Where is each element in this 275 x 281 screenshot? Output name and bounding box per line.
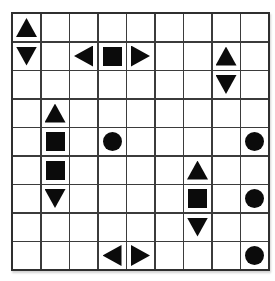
grid-cell-r1c2[interactable]: [42, 14, 69, 41]
grid-cell-r3c7[interactable]: [184, 71, 211, 98]
grid-cell-r2c6[interactable]: [156, 43, 183, 70]
grid-cell-r8c2[interactable]: [42, 214, 69, 241]
grid-cell-r3c4[interactable]: [99, 71, 126, 98]
grid-cell-r2c2[interactable]: [42, 43, 69, 70]
grid-cell-r6c6[interactable]: [156, 157, 183, 184]
grid-cell-r2c5[interactable]: [127, 43, 154, 70]
grid-cell-r5c5[interactable]: [127, 128, 154, 155]
grid-cell-r3c9[interactable]: [241, 71, 268, 98]
grid-cell-r5c4[interactable]: [99, 128, 126, 155]
grid-cell-r4c7[interactable]: [184, 100, 211, 127]
grid-cell-r4c8[interactable]: [213, 100, 240, 127]
grid-cell-r9c1[interactable]: [13, 242, 40, 269]
grid-cell-r5c8[interactable]: [213, 128, 240, 155]
grid-cell-r4c5[interactable]: [127, 100, 154, 127]
triangle-right-icon: [131, 245, 150, 266]
grid-cell-r3c6[interactable]: [156, 71, 183, 98]
grid-cell-r1c6[interactable]: [156, 14, 183, 41]
grid-cell-r3c3[interactable]: [70, 71, 97, 98]
grid-cell-r7c6[interactable]: [156, 185, 183, 212]
triangle-left-icon: [103, 245, 122, 266]
grid-cell-r8c9[interactable]: [241, 214, 268, 241]
grid-cell-r6c7[interactable]: [184, 157, 211, 184]
square-icon: [46, 132, 65, 151]
grid-cell-r4c4[interactable]: [99, 100, 126, 127]
grid-cell-r9c4[interactable]: [99, 242, 126, 269]
grid-cell-r1c9[interactable]: [241, 14, 268, 41]
triangle-down-icon: [187, 218, 208, 237]
grid-cell-r7c7[interactable]: [184, 185, 211, 212]
grid-cell-r7c9[interactable]: [241, 185, 268, 212]
grid-cell-r8c1[interactable]: [13, 214, 40, 241]
grid-cell-r3c8[interactable]: [213, 71, 240, 98]
triangle-down-icon: [216, 75, 237, 94]
grid-cell-r3c1[interactable]: [13, 71, 40, 98]
grid-cell-r5c6[interactable]: [156, 128, 183, 155]
grid-cell-r7c2[interactable]: [42, 185, 69, 212]
grid-cell-r1c4[interactable]: [99, 14, 126, 41]
grid-cell-r6c4[interactable]: [99, 157, 126, 184]
grid-cell-r8c4[interactable]: [99, 214, 126, 241]
grid-cell-r9c8[interactable]: [213, 242, 240, 269]
grid-cell-r3c5[interactable]: [127, 71, 154, 98]
grid-cell-r7c5[interactable]: [127, 185, 154, 212]
grid-cell-r4c3[interactable]: [70, 100, 97, 127]
grid-cell-r7c8[interactable]: [213, 185, 240, 212]
grid-cell-r6c9[interactable]: [241, 157, 268, 184]
square-icon: [188, 189, 207, 208]
grid-cell-r3c2[interactable]: [42, 71, 69, 98]
grid-cell-r9c2[interactable]: [42, 242, 69, 269]
grid-cell-r2c9[interactable]: [241, 43, 268, 70]
grid-cell-r1c7[interactable]: [184, 14, 211, 41]
grid-cell-r5c1[interactable]: [13, 128, 40, 155]
grid-cell-r5c7[interactable]: [184, 128, 211, 155]
square-icon: [46, 161, 65, 180]
circle-icon: [103, 132, 122, 151]
grid-cell-r5c9[interactable]: [241, 128, 268, 155]
grid-cell-r8c6[interactable]: [156, 214, 183, 241]
grid-cell-r8c3[interactable]: [70, 214, 97, 241]
grid-cell-r2c1[interactable]: [13, 43, 40, 70]
grid-cell-r9c9[interactable]: [241, 242, 268, 269]
grid-cell-r5c3[interactable]: [70, 128, 97, 155]
grid-cell-r9c5[interactable]: [127, 242, 154, 269]
triangle-left-icon: [74, 46, 93, 67]
grid-cell-r1c8[interactable]: [213, 14, 240, 41]
grid-cell-r8c7[interactable]: [184, 214, 211, 241]
grid-cell-r7c3[interactable]: [70, 185, 97, 212]
triangle-down-icon: [45, 189, 66, 208]
grid-cell-r4c6[interactable]: [156, 100, 183, 127]
grid-cell-r4c1[interactable]: [13, 100, 40, 127]
triangle-down-icon: [16, 47, 37, 66]
grid-cell-r2c3[interactable]: [70, 43, 97, 70]
triangle-up-icon: [187, 161, 208, 180]
grid-cell-r2c7[interactable]: [184, 43, 211, 70]
grid-cell-r7c1[interactable]: [13, 185, 40, 212]
square-icon: [103, 47, 122, 66]
grid-cell-r6c1[interactable]: [13, 157, 40, 184]
grid-cell-r8c8[interactable]: [213, 214, 240, 241]
circle-icon: [245, 189, 264, 208]
grid-cell-r1c3[interactable]: [70, 14, 97, 41]
grid-cell-r8c5[interactable]: [127, 214, 154, 241]
circle-icon: [245, 246, 264, 265]
grid-cell-r6c2[interactable]: [42, 157, 69, 184]
grid-cell-r9c6[interactable]: [156, 242, 183, 269]
grid-cell-r7c4[interactable]: [99, 185, 126, 212]
grid-cell-r1c5[interactable]: [127, 14, 154, 41]
grid-cell-r5c2[interactable]: [42, 128, 69, 155]
triangle-up-icon: [45, 104, 66, 123]
grid-cell-r6c5[interactable]: [127, 157, 154, 184]
grid-cell-r6c3[interactable]: [70, 157, 97, 184]
grid-cell-r9c3[interactable]: [70, 242, 97, 269]
grid-cell-r9c7[interactable]: [184, 242, 211, 269]
triangle-right-icon: [131, 46, 150, 67]
circle-icon: [245, 132, 264, 151]
grid-cell-r1c1[interactable]: [13, 14, 40, 41]
puzzle-grid: [11, 12, 270, 271]
grid-cell-r2c4[interactable]: [99, 43, 126, 70]
grid-cell-r4c9[interactable]: [241, 100, 268, 127]
grid-cell-r6c8[interactable]: [213, 157, 240, 184]
grid-cell-r4c2[interactable]: [42, 100, 69, 127]
grid-cell-r2c8[interactable]: [213, 43, 240, 70]
